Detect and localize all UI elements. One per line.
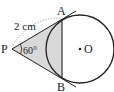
centre-dot	[79, 48, 82, 51]
length-label: 2 cm	[14, 20, 36, 32]
point-b-label: B	[57, 80, 65, 92]
point-o-label: O	[84, 42, 93, 56]
angle-label: 60°	[23, 45, 37, 56]
tangent-diagram: 2 cm 60° P A B O	[0, 0, 114, 92]
point-a-label: A	[57, 4, 66, 18]
point-p-label: P	[1, 42, 8, 56]
